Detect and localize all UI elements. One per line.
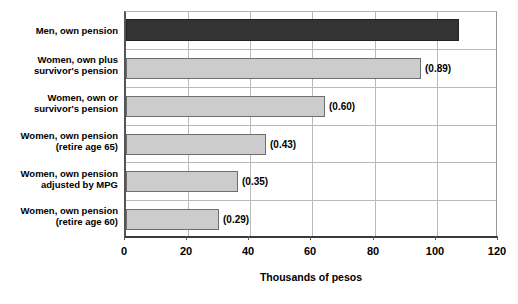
x-tick-mark-120: [497, 236, 498, 240]
category-axis-labels: Men, own pension Women, own plus survivo…: [0, 11, 118, 236]
x-tick-label-40: 40: [242, 245, 254, 257]
category-label-women-own-or-survivors: Women, own or survivor's pension: [0, 92, 118, 114]
gridline-band-1: [126, 49, 496, 50]
x-tick-mark-80: [373, 236, 374, 240]
category-label-women-own-retire-60: Women, own pension (retire age 60): [0, 205, 118, 227]
bar-value-women-own-retire-60: (0.29): [223, 215, 249, 225]
x-tick-label-60: 60: [304, 245, 316, 257]
bar-women-own-retire-65[interactable]: [126, 134, 266, 155]
category-label-women-own-plus-survivors: Women, own plus survivor's pension: [0, 54, 118, 76]
bar-value-women-own-adjusted-mpg: (0.35): [242, 177, 268, 187]
gridline-band-2: [126, 87, 496, 88]
x-tick-mark-100: [435, 236, 436, 240]
bar-men-own-pension[interactable]: [126, 19, 459, 41]
plot-area: (0.89) (0.60) (0.43) (0.35) (0.29): [124, 11, 497, 236]
gridline-band-4: [126, 162, 496, 163]
x-tick-label-100: 100: [426, 245, 444, 257]
x-tick-mark-60: [310, 236, 311, 240]
gridline-band-5: [126, 200, 496, 201]
x-tick-mark-40: [248, 236, 249, 240]
bar-women-own-plus-survivors[interactable]: [126, 58, 421, 79]
x-tick-label-80: 80: [367, 245, 379, 257]
gridline-vertical-20: [188, 12, 189, 236]
gridline-vertical-80: [375, 12, 376, 236]
x-axis-title: Thousands of pesos: [124, 271, 498, 283]
x-tick-label-120: 120: [488, 245, 506, 257]
gridline-band-3: [126, 125, 496, 126]
x-tick-label-20: 20: [180, 245, 192, 257]
bar-value-women-own-plus-survivors: (0.89): [425, 64, 451, 74]
bar-value-women-own-or-survivors: (0.60): [329, 102, 355, 112]
bar-women-own-adjusted-mpg[interactable]: [126, 171, 238, 192]
gridline-vertical-60: [312, 12, 313, 236]
x-axis-line: [124, 236, 498, 238]
x-tick-mark-20: [186, 236, 187, 240]
gridline-vertical-40: [250, 12, 251, 236]
x-tick-label-0: 0: [121, 245, 127, 257]
category-label-men-own-pension: Men, own pension: [0, 25, 118, 36]
gridline-vertical-100: [437, 12, 438, 236]
category-label-women-own-adjusted-mpg: Women, own pension adjusted by MPG: [0, 168, 118, 190]
category-label-women-own-retire-65: Women, own pension (retire age 65): [0, 130, 118, 152]
bar-value-women-own-retire-65: (0.43): [270, 140, 296, 150]
x-tick-mark-0: [124, 236, 125, 240]
bar-women-own-or-survivors[interactable]: [126, 96, 325, 117]
bar-chart: Men, own pension Women, own plus survivo…: [0, 0, 518, 304]
bar-women-own-retire-60[interactable]: [126, 209, 219, 230]
